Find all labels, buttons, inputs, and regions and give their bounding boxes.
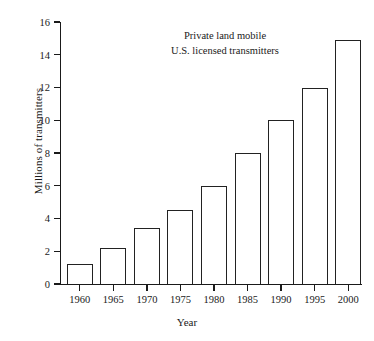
chart-title-line-1: Private land mobile bbox=[110, 28, 340, 43]
x-tick-mark bbox=[180, 285, 181, 291]
x-tick-label: 1980 bbox=[204, 294, 225, 305]
x-tick-label: 1985 bbox=[237, 294, 258, 305]
y-axis-line bbox=[60, 22, 61, 284]
x-tick-label: 1975 bbox=[170, 294, 191, 305]
bar bbox=[201, 186, 227, 284]
y-tick-label: 8 bbox=[45, 147, 50, 158]
y-tick-label: 16 bbox=[40, 17, 51, 28]
x-tick-label: 1960 bbox=[69, 294, 90, 305]
y-tick-mark: 8 bbox=[54, 152, 60, 153]
bar bbox=[235, 153, 261, 284]
x-tick-label: 2000 bbox=[338, 294, 359, 305]
y-tick-mark: 4 bbox=[54, 218, 60, 219]
x-tick-label: 1970 bbox=[136, 294, 157, 305]
bar bbox=[67, 264, 93, 284]
y-tick-label: 14 bbox=[40, 49, 51, 60]
y-tick-mark: 2 bbox=[54, 251, 60, 252]
x-tick-mark bbox=[314, 285, 315, 291]
bar-chart-figure: Millions of transmitters 0246810121416 1… bbox=[0, 0, 374, 341]
x-tick-label: 1990 bbox=[271, 294, 292, 305]
x-tick-mark bbox=[247, 285, 248, 291]
bar bbox=[335, 40, 361, 284]
x-axis-label: Year bbox=[0, 316, 374, 328]
x-tick-mark bbox=[348, 285, 349, 291]
y-axis-label: Millions of transmitters bbox=[32, 41, 44, 241]
y-tick-label: 12 bbox=[40, 82, 51, 93]
y-tick-mark: 0 bbox=[54, 283, 60, 284]
y-tick-mark: 10 bbox=[54, 120, 60, 121]
bar bbox=[100, 248, 126, 284]
x-tick-mark bbox=[79, 285, 80, 291]
y-tick-label: 10 bbox=[40, 115, 51, 126]
bar bbox=[167, 210, 193, 284]
y-tick-label: 4 bbox=[45, 213, 50, 224]
bar bbox=[268, 120, 294, 284]
bar bbox=[134, 228, 160, 284]
x-axis-line bbox=[60, 284, 362, 285]
plot-area: 0246810121416 19601965197019751980198519… bbox=[60, 22, 362, 284]
y-tick-mark: 16 bbox=[54, 21, 60, 22]
y-tick-label: 0 bbox=[45, 278, 50, 289]
x-tick-label: 1995 bbox=[304, 294, 325, 305]
y-tick-mark: 6 bbox=[54, 185, 60, 186]
y-tick-label: 6 bbox=[45, 180, 50, 191]
y-tick-mark: 14 bbox=[54, 54, 60, 55]
chart-title-line-2: U.S. licensed transmitters bbox=[110, 43, 340, 58]
y-tick-label: 2 bbox=[45, 246, 50, 257]
x-tick-mark bbox=[146, 285, 147, 291]
chart-title: Private land mobile U.S. licensed transm… bbox=[110, 28, 340, 58]
bar bbox=[302, 88, 328, 285]
y-tick-mark: 12 bbox=[54, 87, 60, 88]
x-tick-mark bbox=[113, 285, 114, 291]
x-tick-label: 1965 bbox=[103, 294, 124, 305]
x-tick-mark bbox=[280, 285, 281, 291]
x-tick-mark bbox=[213, 285, 214, 291]
